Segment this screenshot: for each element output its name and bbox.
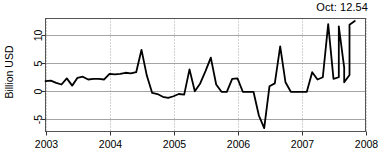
y-tick-label: -5 xyxy=(32,115,44,124)
x-tick-label: 2003 xyxy=(35,138,59,150)
data-series-line xyxy=(46,21,355,128)
x-tick-label: 2004 xyxy=(99,138,123,150)
x-tick-label: 2005 xyxy=(163,138,187,150)
x-tick-label: 2007 xyxy=(291,138,315,150)
y-tick-label: 10 xyxy=(32,30,44,42)
x-tick-group: 200320042005200620072008 xyxy=(35,132,379,150)
y-tick-group: -50510 xyxy=(32,30,46,125)
chart-figure: Oct: 12.54 Billion USD -50510 2003200420… xyxy=(0,0,386,158)
gridlines-group xyxy=(46,36,366,120)
y-tick-label: 0 xyxy=(32,88,44,94)
x-tick-label: 2008 xyxy=(355,138,379,150)
x-tick-label: 2006 xyxy=(227,138,251,150)
y-tick-label: 5 xyxy=(32,60,44,66)
plot-canvas: -50510 200320042005200620072008 xyxy=(0,0,386,158)
